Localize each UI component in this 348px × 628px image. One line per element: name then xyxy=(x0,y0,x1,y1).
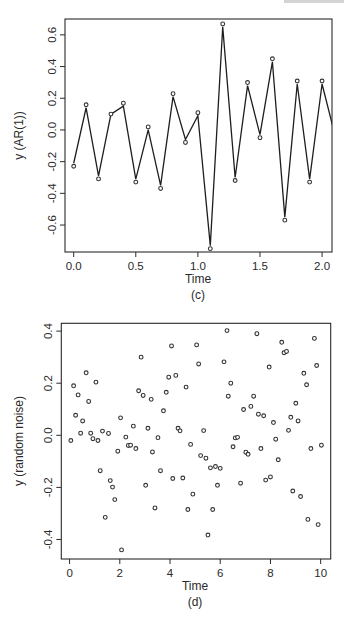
panel-c-ar1-line-chart: 0.00.51.01.52.0 -0.6-0.4-0.20.00.20.40.6… xyxy=(12,19,334,302)
x-tick-label: 1.0 xyxy=(190,260,206,272)
data-point xyxy=(258,136,262,140)
data-point xyxy=(98,469,102,473)
data-point xyxy=(129,443,133,447)
data-point xyxy=(246,452,250,456)
data-point xyxy=(208,247,212,251)
data-point xyxy=(225,329,229,333)
data-point xyxy=(181,476,185,480)
data-point xyxy=(315,364,319,368)
data-point xyxy=(202,429,206,433)
data-point xyxy=(81,419,85,423)
data-point xyxy=(226,394,230,398)
data-point xyxy=(171,477,175,481)
data-point xyxy=(294,401,298,405)
y-tick-label: 0.2 xyxy=(42,375,54,391)
x-tick-label: 1.5 xyxy=(252,260,268,272)
data-point xyxy=(131,424,135,428)
data-point xyxy=(72,164,76,168)
y-tick-label: -0.4 xyxy=(46,183,58,203)
data-point xyxy=(84,103,88,107)
x-tick-label: 4 xyxy=(167,567,174,579)
x-tick-label: 10 xyxy=(314,567,327,579)
data-point xyxy=(197,362,201,366)
x-tick-label: 0.0 xyxy=(66,260,82,272)
x-tick-label: 6 xyxy=(217,567,223,579)
data-point xyxy=(289,415,293,419)
data-point xyxy=(276,458,280,462)
data-point xyxy=(218,466,222,470)
x-tick-label: 2 xyxy=(117,567,123,579)
data-point xyxy=(91,437,95,441)
y-tick-label: -0.4 xyxy=(42,529,54,549)
data-point xyxy=(137,389,141,393)
data-point xyxy=(285,350,289,354)
data-point xyxy=(309,447,313,451)
data-point xyxy=(144,483,148,487)
x-axis-label: Time xyxy=(182,579,209,593)
series-line xyxy=(74,27,335,246)
data-point xyxy=(283,218,287,222)
data-point xyxy=(116,449,120,453)
data-point xyxy=(312,337,316,341)
data-point xyxy=(97,177,101,181)
data-point xyxy=(221,22,225,26)
data-point xyxy=(191,492,195,496)
y-tick-label: 0.4 xyxy=(46,58,58,75)
panel-d-random-noise-scatter: 0246810 -0.4-0.20.00.20.4 Time (d) y (ra… xyxy=(12,323,331,609)
x-axis-label: Time xyxy=(185,272,212,286)
data-point xyxy=(305,383,309,387)
data-point xyxy=(156,436,160,440)
data-point xyxy=(141,394,145,398)
x-tick-label: 0 xyxy=(66,567,72,579)
y-tick-label: 0.4 xyxy=(42,323,54,340)
data-point xyxy=(174,373,178,377)
data-point xyxy=(159,187,163,191)
data-point xyxy=(272,421,276,425)
data-point xyxy=(306,518,310,522)
data-point xyxy=(167,375,171,379)
y-tick-label: 0.2 xyxy=(46,90,58,106)
data-point xyxy=(79,431,83,435)
x-axis: 0246810 xyxy=(66,559,327,579)
data-point xyxy=(229,381,233,385)
y-axis: -0.4-0.20.00.20.4 xyxy=(42,323,61,550)
plot-frame xyxy=(61,323,330,559)
data-point xyxy=(302,371,306,375)
y-tick-label: -0.2 xyxy=(46,152,58,172)
data-point xyxy=(296,419,300,423)
data-point xyxy=(103,515,107,519)
y-tick-label: 0.0 xyxy=(42,427,54,443)
data-point xyxy=(264,478,268,482)
data-point xyxy=(295,79,299,83)
data-point xyxy=(209,466,213,470)
data-point xyxy=(259,447,263,451)
data-point xyxy=(291,489,295,493)
data-point xyxy=(84,371,88,375)
data-point xyxy=(94,380,98,384)
data-point xyxy=(287,428,291,432)
data-point xyxy=(252,394,256,398)
data-point xyxy=(199,454,203,458)
y-axis: -0.6-0.4-0.20.00.20.40.6 xyxy=(46,27,65,235)
x-axis: 0.00.51.01.52.0 xyxy=(66,252,330,272)
data-point xyxy=(214,465,218,469)
data-point xyxy=(89,431,93,435)
data-point xyxy=(320,443,324,447)
data-point xyxy=(146,125,150,129)
y-axis-label: y (AR(1)) xyxy=(12,111,26,160)
data-point xyxy=(316,523,320,527)
data-point xyxy=(189,443,193,447)
y-tick-label: -0.6 xyxy=(46,215,58,235)
data-point xyxy=(178,429,182,433)
data-point xyxy=(239,481,243,485)
data-point xyxy=(146,426,150,430)
data-point xyxy=(204,456,208,460)
data-point xyxy=(72,384,76,388)
series-random-noise xyxy=(69,329,323,552)
data-point xyxy=(320,79,324,83)
data-point xyxy=(119,416,123,420)
data-point xyxy=(170,344,174,348)
data-point xyxy=(149,397,153,401)
data-point xyxy=(216,483,220,487)
data-point xyxy=(111,485,115,489)
